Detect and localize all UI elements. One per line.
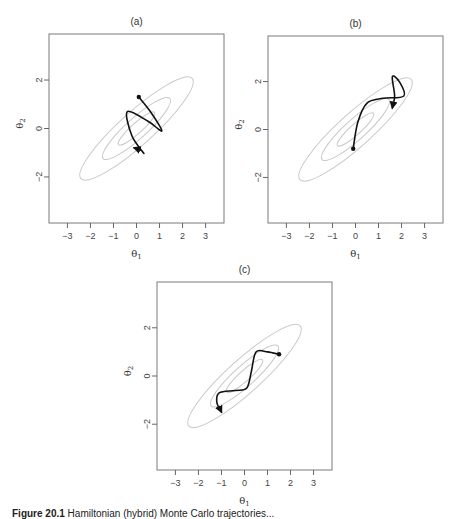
trajectory-start-point bbox=[137, 95, 141, 99]
svg-text:−3: −3 bbox=[281, 231, 291, 241]
panel-title: (c) bbox=[239, 264, 251, 275]
density-contours bbox=[178, 314, 311, 439]
svg-text:0: 0 bbox=[253, 127, 263, 132]
trajectory-start-point bbox=[277, 352, 281, 356]
svg-text:3: 3 bbox=[203, 231, 208, 241]
svg-text:−1: −1 bbox=[327, 231, 337, 241]
svg-text:2: 2 bbox=[34, 78, 44, 83]
svg-text:1: 1 bbox=[157, 231, 162, 241]
svg-text:2: 2 bbox=[180, 231, 185, 241]
svg-text:−1: −1 bbox=[216, 478, 226, 488]
plot-frame bbox=[49, 34, 224, 223]
y-axis: −202 bbox=[253, 79, 268, 183]
svg-text:−3: −3 bbox=[170, 478, 180, 488]
x-axis: −3−2−10123 bbox=[281, 223, 427, 241]
svg-text:1: 1 bbox=[265, 478, 270, 488]
y-axis-label: θ2 bbox=[14, 118, 27, 129]
svg-text:−2: −2 bbox=[304, 231, 314, 241]
svg-text:1: 1 bbox=[376, 231, 381, 241]
figure-caption: Figure 20.1 Hamiltonian (hybrid) Monte C… bbox=[12, 508, 274, 519]
panel-title: (b) bbox=[349, 18, 361, 29]
svg-text:3: 3 bbox=[311, 478, 316, 488]
svg-text:2: 2 bbox=[399, 231, 404, 241]
svg-text:0: 0 bbox=[353, 231, 358, 241]
svg-text:−1: −1 bbox=[108, 231, 118, 241]
panel-a: (a)−3−2−10123θ1−202θ2 bbox=[14, 16, 224, 261]
svg-text:−2: −2 bbox=[85, 231, 95, 241]
svg-text:2: 2 bbox=[288, 478, 293, 488]
x-axis-label: θ1 bbox=[131, 248, 142, 261]
svg-text:0: 0 bbox=[134, 231, 139, 241]
panel-title: (a) bbox=[130, 16, 142, 27]
x-axis-label: θ1 bbox=[350, 248, 361, 261]
caption-text: Hamiltonian (hybrid) Monte Carlo traject… bbox=[68, 508, 275, 519]
svg-text:−2: −2 bbox=[253, 172, 263, 182]
density-contours bbox=[70, 66, 203, 191]
svg-text:3: 3 bbox=[422, 231, 427, 241]
caption-label: Figure 20.1 bbox=[12, 508, 65, 519]
y-axis-label: θ2 bbox=[122, 366, 135, 377]
y-axis-label: θ2 bbox=[233, 119, 246, 130]
x-axis-label: θ1 bbox=[239, 495, 250, 508]
svg-text:−2: −2 bbox=[34, 172, 44, 182]
x-axis: −3−2−10123 bbox=[62, 223, 208, 241]
svg-text:−3: −3 bbox=[62, 231, 72, 241]
svg-text:0: 0 bbox=[142, 373, 152, 378]
svg-text:0: 0 bbox=[34, 126, 44, 131]
svg-text:2: 2 bbox=[253, 79, 263, 84]
y-axis: −202 bbox=[142, 325, 157, 429]
y-axis: −202 bbox=[34, 78, 49, 183]
panel-c: (c)−3−2−10123θ1−202θ2 bbox=[122, 264, 332, 508]
panel-b: (b)−3−2−10123θ1−202θ2 bbox=[233, 18, 443, 261]
svg-text:0: 0 bbox=[242, 478, 247, 488]
svg-text:2: 2 bbox=[142, 325, 152, 330]
svg-text:−2: −2 bbox=[142, 419, 152, 429]
trajectory-start-point bbox=[351, 146, 355, 150]
plot-frame bbox=[157, 282, 332, 470]
hmc-trajectory bbox=[353, 76, 404, 149]
x-axis: −3−2−10123 bbox=[170, 470, 316, 488]
svg-text:−2: −2 bbox=[193, 478, 203, 488]
figure-canvas: (a)−3−2−10123θ1−202θ2(b)−3−2−10123θ1−202… bbox=[0, 0, 458, 519]
